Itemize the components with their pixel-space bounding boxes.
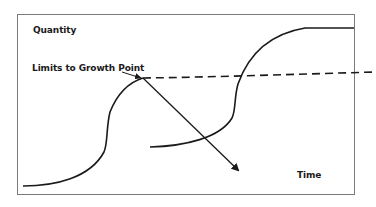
decline-arrow bbox=[143, 78, 238, 170]
x-axis-label: Time bbox=[297, 170, 321, 180]
limit-line bbox=[143, 72, 376, 78]
growth-curve-2 bbox=[150, 28, 354, 147]
limits-to-growth-label: Limits to Growth Point bbox=[32, 63, 144, 73]
y-axis-label: Quantity bbox=[33, 25, 76, 35]
growth-curve-1 bbox=[23, 78, 143, 186]
